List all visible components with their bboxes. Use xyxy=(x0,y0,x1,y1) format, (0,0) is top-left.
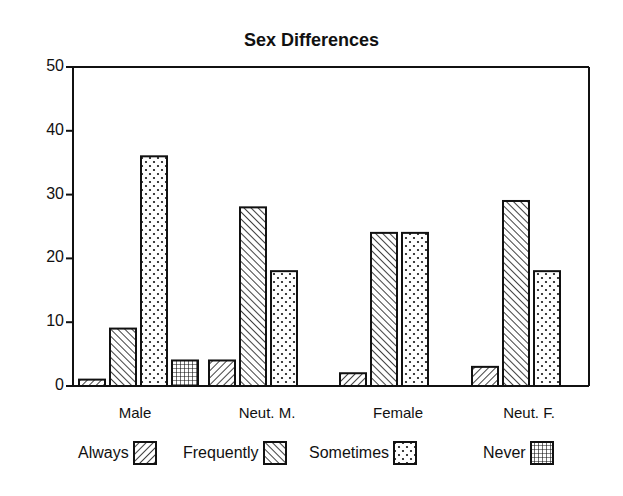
plot-area xyxy=(0,0,623,496)
y-tick-label: 20 xyxy=(24,248,64,266)
diagonal-hatch-backward-icon xyxy=(263,441,287,465)
bar-frequently-3 xyxy=(503,201,529,386)
legend-label: Never xyxy=(483,444,526,462)
grid-pattern-icon xyxy=(530,441,554,465)
legend-label: Sometimes xyxy=(309,444,389,462)
bar-always-2 xyxy=(340,373,366,386)
legend-label: Always xyxy=(78,444,129,462)
legend-item-always: Always xyxy=(78,441,157,465)
bar-sometimes-3 xyxy=(534,271,560,386)
bar-frequently-1 xyxy=(240,207,266,386)
bar-always-1 xyxy=(209,360,235,386)
diagonal-hatch-forward-icon xyxy=(133,441,157,465)
y-tick-label: 10 xyxy=(24,312,64,330)
x-category-label: Female xyxy=(343,404,453,421)
y-tick-label: 40 xyxy=(24,121,64,139)
bar-always-0 xyxy=(79,380,105,386)
bars xyxy=(79,156,560,386)
y-tick-label: 30 xyxy=(24,185,64,203)
y-tick-label: 0 xyxy=(24,376,64,394)
y-axis-ticks xyxy=(66,67,73,386)
x-category-label: Male xyxy=(80,404,190,421)
bar-sometimes-0 xyxy=(141,156,167,386)
dots-pattern-icon xyxy=(393,441,417,465)
bar-frequently-0 xyxy=(110,329,136,386)
legend-item-never: Never xyxy=(483,441,554,465)
bar-sometimes-2 xyxy=(402,233,428,386)
y-tick-label: 50 xyxy=(24,57,64,75)
legend-item-sometimes: Sometimes xyxy=(309,441,417,465)
legend-label: Frequently xyxy=(183,444,259,462)
x-category-label: Neut. M. xyxy=(212,404,322,421)
legend-item-frequently: Frequently xyxy=(183,441,287,465)
bar-never-0 xyxy=(172,360,198,386)
bar-always-3 xyxy=(472,367,498,386)
bar-sometimes-1 xyxy=(271,271,297,386)
x-category-label: Neut. F. xyxy=(474,404,584,421)
bar-frequently-2 xyxy=(371,233,397,386)
